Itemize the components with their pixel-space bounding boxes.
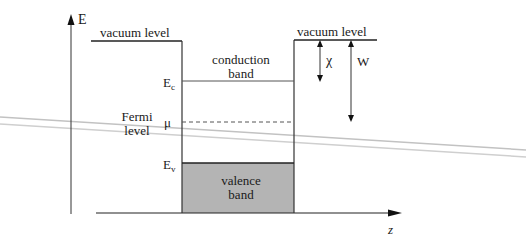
arrow-down-icon <box>317 75 323 82</box>
z-axis-label: z <box>388 223 393 237</box>
work-function-label: W <box>357 55 369 69</box>
z-axis-arrow-icon <box>388 210 402 217</box>
electron-affinity-label: χ <box>326 54 332 68</box>
vacuum-level-right-label: vacuum level <box>297 25 367 39</box>
scan-artifact-line <box>0 124 526 157</box>
energy-axis-label: E <box>78 13 87 27</box>
valence-band-label: valence band <box>196 174 286 202</box>
diagram-graphics <box>0 0 526 242</box>
conduction-band-label: conduction band <box>196 53 286 81</box>
arrow-down-icon <box>348 115 354 122</box>
fermi-level-label: Fermi level <box>113 110 161 138</box>
energy-axis-arrow-icon <box>68 14 75 25</box>
band-diagram: E z vacuum level vacuum level conduction… <box>0 0 526 242</box>
vacuum-level-left-label: vacuum level <box>100 26 170 40</box>
ec-label: Ec <box>163 76 175 91</box>
mu-label: μ <box>164 116 171 130</box>
arrow-up-icon <box>317 40 323 47</box>
arrow-up-icon <box>348 40 354 47</box>
ev-label: Ev <box>163 158 175 173</box>
